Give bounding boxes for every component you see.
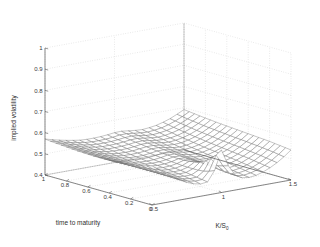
label-element: 0.7 bbox=[34, 109, 43, 115]
implied-volatility-mesh bbox=[45, 110, 291, 184]
z-axis-label: implied volatility bbox=[10, 94, 18, 140]
y-axis-label: time to maturity bbox=[56, 219, 101, 227]
label-element: 0.4 bbox=[104, 194, 113, 200]
grid-element bbox=[184, 23, 291, 53]
label-element: 0.6 bbox=[82, 188, 91, 194]
axes-element bbox=[219, 191, 222, 193]
matlab-figure-window: 0.40.50.60.70.80.9100.20.40.60.810.511.5… bbox=[0, 0, 320, 247]
axes-element bbox=[45, 175, 152, 205]
axes-element bbox=[45, 154, 48, 155]
axes-element bbox=[45, 112, 48, 113]
axes-element bbox=[109, 191, 112, 193]
label-element: 0.2 bbox=[125, 200, 134, 206]
axes-element bbox=[45, 90, 48, 91]
surface-plot-canvas: 0.40.50.60.70.80.9100.20.40.60.810.511.5… bbox=[0, 0, 320, 247]
axes-element bbox=[45, 48, 48, 49]
label-element: 0.5 bbox=[34, 151, 43, 157]
axes-element bbox=[131, 197, 134, 199]
axes-element bbox=[88, 185, 91, 187]
grid-element bbox=[184, 44, 291, 74]
label-element: 0.8 bbox=[34, 88, 43, 94]
label-element: 1 bbox=[222, 194, 226, 200]
axes-element bbox=[45, 69, 48, 70]
label-element: 0.8 bbox=[61, 182, 70, 188]
x-axis-label: K/S0 bbox=[215, 222, 228, 231]
grid-layer bbox=[45, 23, 291, 205]
label-element: 1.5 bbox=[289, 181, 298, 187]
label-element: 1 bbox=[42, 176, 46, 182]
axes-element bbox=[66, 179, 69, 181]
label-element: 0.5 bbox=[150, 206, 159, 212]
label-element: 0.6 bbox=[34, 130, 43, 136]
label-element: 1 bbox=[39, 45, 43, 51]
axes-element bbox=[45, 133, 48, 134]
grid-element bbox=[184, 87, 291, 117]
label-element: 0.9 bbox=[34, 66, 43, 72]
grid-element bbox=[184, 65, 291, 95]
